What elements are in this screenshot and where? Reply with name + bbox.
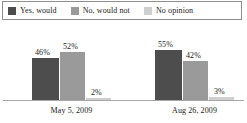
bar-g0-s1[interactable] xyxy=(60,52,85,100)
bar-g1-s2[interactable] xyxy=(209,97,234,100)
bar-value-g1-s2: 3% xyxy=(214,87,225,96)
bar-value-g0-s0: 46% xyxy=(35,48,50,57)
chart-legend: Yes, would No, would not No opinion xyxy=(2,1,242,20)
group-label-aug-26-2009: Aug 26, 2009 xyxy=(155,106,234,116)
bar-g0-s0[interactable] xyxy=(32,58,59,100)
group-label-may-5-2009: May 5, 2009 xyxy=(32,106,111,116)
legend-label: Yes, would xyxy=(20,6,57,15)
legend-item-no-opinion[interactable]: No opinion xyxy=(144,6,193,15)
legend-item-yes-would[interactable]: Yes, would xyxy=(8,6,57,15)
bar-chart: Yes, would No, would not No opinion 46% … xyxy=(0,0,247,123)
legend-label: No, would not xyxy=(83,6,130,15)
bar-value-g1-s0: 55% xyxy=(158,40,173,49)
plot-area: 46% 52% 2% May 5, 2009 55% 42% 3% Aug 26… xyxy=(0,22,247,123)
legend-label: No opinion xyxy=(156,6,193,15)
bar-g1-s1[interactable] xyxy=(183,61,208,100)
legend-swatch-icon xyxy=(8,7,16,15)
bar-g1-s0[interactable] xyxy=(155,50,182,100)
bar-value-g0-s1: 52% xyxy=(63,42,78,51)
legend-swatch-icon xyxy=(144,7,152,15)
bar-g0-s2[interactable] xyxy=(86,98,111,100)
x-axis-line xyxy=(3,100,244,101)
legend-item-no-would-not[interactable]: No, would not xyxy=(71,6,130,15)
bar-value-g0-s2: 2% xyxy=(91,88,102,97)
bar-value-g1-s1: 42% xyxy=(186,51,201,60)
legend-swatch-icon xyxy=(71,7,79,15)
